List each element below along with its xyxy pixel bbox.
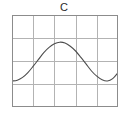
plot-area xyxy=(12,15,118,107)
grid-lines-horizontal xyxy=(12,39,118,85)
plot-canvas xyxy=(12,15,118,107)
chart-title: C xyxy=(0,1,128,14)
chart-figure: C xyxy=(0,0,128,115)
